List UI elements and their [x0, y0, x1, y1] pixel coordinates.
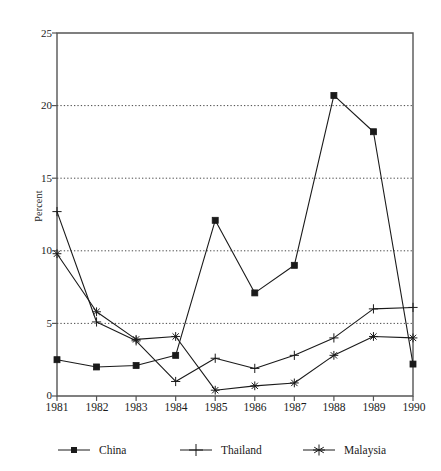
plot-frame — [57, 33, 413, 396]
series-china — [54, 92, 416, 370]
line-chart: Percent 25 20 15 10 5 0 1981 1982 1983 1… — [0, 0, 441, 471]
x-tick-label-1990: 1990 — [391, 401, 437, 413]
series-malaysia — [53, 249, 418, 394]
series-thailand — [52, 207, 417, 386]
legend-marker-asterisk-icon — [302, 443, 336, 457]
chart-legend: China Thailand Malaysia — [57, 440, 417, 464]
gridlines — [57, 106, 413, 324]
axis-ticks — [52, 33, 413, 401]
data-series — [52, 92, 417, 394]
legend-item-thailand[interactable]: Thailand — [179, 440, 262, 460]
legend-label-malaysia: Malaysia — [344, 444, 386, 456]
legend-label-thailand: Thailand — [221, 444, 262, 456]
legend-item-china[interactable]: China — [57, 440, 126, 460]
legend-label-china: China — [99, 444, 126, 456]
legend-marker-plus-icon — [179, 443, 213, 457]
legend-marker-filled-square-icon — [57, 443, 91, 457]
legend-item-malaysia[interactable]: Malaysia — [302, 440, 386, 460]
